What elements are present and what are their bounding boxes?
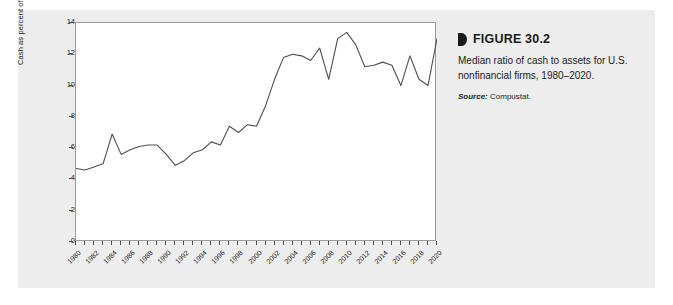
x-axis-tick-mark xyxy=(84,241,85,245)
x-axis-tick-mark xyxy=(400,241,401,245)
x-axis-tick-mark xyxy=(355,241,356,245)
y-axis-tick-mark xyxy=(69,53,73,54)
x-axis-tick-mark xyxy=(165,241,166,245)
chart-area: Cash as percent of assets 02468101214 19… xyxy=(18,10,448,288)
y-axis-title: Cash as percent of assets xyxy=(16,0,25,65)
y-axis-tick-mark xyxy=(69,116,73,117)
x-axis-tick-mark xyxy=(75,241,76,245)
x-axis-tick-mark xyxy=(102,241,103,245)
x-axis-tick-mark xyxy=(201,241,202,245)
figure-source: Source: Compustat. xyxy=(458,92,648,101)
x-axis-tick-mark xyxy=(138,241,139,245)
x-axis-tick-mark xyxy=(337,241,338,245)
figure-caption: FIGURE 30.2 Median ratio of cash to asse… xyxy=(458,32,648,101)
y-axis-tick-mark xyxy=(69,22,73,23)
x-axis-tick-mark xyxy=(111,241,112,245)
y-axis-tick-mark xyxy=(69,85,73,86)
y-axis-tick-mark xyxy=(69,241,73,242)
x-axis-tick-mark xyxy=(292,241,293,245)
x-axis-tick-mark xyxy=(391,241,392,245)
y-axis-ticks: 02468101214 xyxy=(39,10,75,253)
x-axis-tick-mark xyxy=(192,241,193,245)
x-axis-tick-mark xyxy=(246,241,247,245)
source-value: Compustat. xyxy=(490,92,531,101)
source-label: Source: xyxy=(458,92,488,101)
x-axis-tick-mark xyxy=(382,241,383,245)
y-axis-tick-mark xyxy=(69,210,73,211)
x-axis-tick-mark xyxy=(147,241,148,245)
x-axis-tick-mark xyxy=(373,241,374,245)
x-axis-tick-mark xyxy=(120,241,121,245)
x-axis-tick-mark xyxy=(328,241,329,245)
caption-header: FIGURE 30.2 xyxy=(458,32,648,46)
x-axis-tick-mark xyxy=(265,241,266,245)
x-axis-ticks xyxy=(75,241,437,247)
x-axis-tick-mark xyxy=(129,241,130,245)
x-axis-tick-mark xyxy=(93,241,94,245)
x-axis-tick-mark xyxy=(274,241,275,245)
y-axis-tick-mark xyxy=(69,178,73,179)
x-axis-tick-mark xyxy=(436,241,437,245)
x-axis-tick-mark xyxy=(174,241,175,245)
y-axis-tick-mark xyxy=(69,147,73,148)
figure-number: FIGURE 30.2 xyxy=(473,32,550,46)
line-series xyxy=(76,23,437,242)
x-axis-tick-mark xyxy=(301,241,302,245)
figure-panel: Cash as percent of assets 02468101214 19… xyxy=(18,10,655,288)
x-axis-tick-mark xyxy=(210,241,211,245)
x-axis-tick-mark xyxy=(346,241,347,245)
x-axis-tick-mark xyxy=(283,241,284,245)
x-axis-tick-mark xyxy=(219,241,220,245)
figure-description: Median ratio of cash to assets for U.S. … xyxy=(458,53,648,83)
x-axis-tick-labels: 1980198219841986198819901992199419961998… xyxy=(75,249,437,289)
x-axis-tick-mark xyxy=(156,241,157,245)
x-axis-tick-mark xyxy=(319,241,320,245)
x-axis-tick-mark xyxy=(256,241,257,245)
x-axis-tick-mark xyxy=(183,241,184,245)
x-axis-tick-mark xyxy=(427,241,428,245)
x-axis-tick-mark xyxy=(409,241,410,245)
x-axis-tick-mark xyxy=(364,241,365,245)
x-axis-tick-mark xyxy=(228,241,229,245)
x-axis-tick-mark xyxy=(237,241,238,245)
x-axis-tick-mark xyxy=(418,241,419,245)
x-axis-tick-mark xyxy=(310,241,311,245)
plot-box xyxy=(75,22,436,241)
triangle-marker-icon xyxy=(458,33,467,46)
